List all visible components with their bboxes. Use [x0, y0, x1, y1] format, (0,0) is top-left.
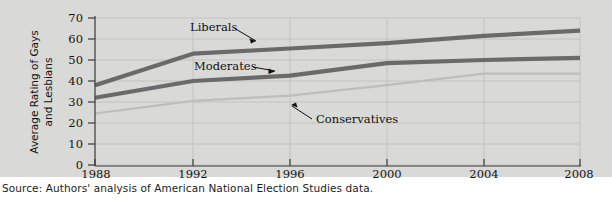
y-tick-label-20: 20 — [68, 116, 83, 130]
annotation-conservatives-leader — [292, 106, 312, 119]
x-tick-label-2000: 2000 — [372, 167, 401, 181]
y-tick-label-10: 10 — [68, 137, 83, 151]
y-tick-label-60: 60 — [68, 32, 83, 46]
annotation-conservatives-label: Conservatives — [316, 112, 398, 126]
annotation-conservatives: Conservatives — [291, 103, 398, 127]
y-tick-label-30: 30 — [68, 95, 83, 109]
x-tick-label-2008: 2008 — [564, 167, 593, 181]
annotation-moderates-arrowhead — [269, 69, 276, 75]
source-note: Source: Authors' analysis of American Na… — [2, 182, 373, 194]
annotation-liberals: Liberals — [190, 20, 256, 44]
x-tick-label-1996: 1996 — [275, 167, 304, 181]
x-tick-label-1988: 1988 — [81, 167, 110, 181]
x-tick-label-2004: 2004 — [469, 167, 498, 181]
y-axis-title: Average Rating of Gays and Lesbians — [28, 30, 54, 153]
series-conservatives — [95, 74, 580, 114]
y-tick-label-70: 70 — [68, 11, 83, 25]
conservatives-line — [95, 74, 580, 114]
y-axis: 0 10 20 30 40 50 60 70 — [68, 11, 95, 172]
x-tick-label-1992: 1992 — [178, 167, 207, 181]
y-axis-title-line1: Average Rating of Gays — [28, 30, 40, 153]
annotation-conservatives-arrowhead — [291, 103, 298, 108]
y-tick-label-40: 40 — [68, 74, 83, 88]
x-axis: 1988 1992 1996 2000 2004 2008 — [81, 159, 593, 181]
line-chart: 0 10 20 30 40 50 60 70 Average Rating of… — [0, 0, 612, 203]
annotation-moderates: Moderates — [194, 59, 275, 74]
annotation-moderates-label: Moderates — [194, 59, 257, 73]
annotation-liberals-label: Liberals — [190, 20, 238, 34]
y-axis-title-line2: and Lesbians — [42, 58, 54, 127]
y-tick-label-50: 50 — [68, 53, 83, 67]
figure-container: 0 10 20 30 40 50 60 70 Average Rating of… — [0, 0, 612, 203]
